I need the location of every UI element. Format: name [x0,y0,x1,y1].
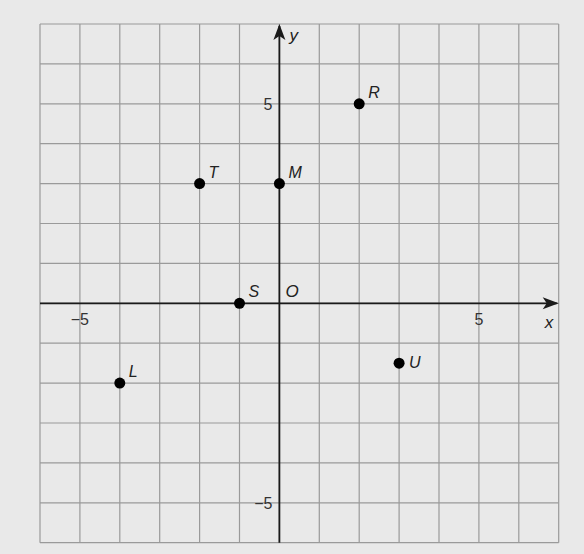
point-u-label: U [409,354,421,371]
x-tick-label: 5 [474,311,483,328]
y-axis-label: y [288,26,299,45]
grid [40,24,559,543]
x-tick-label: −5 [71,311,89,328]
point-s-marker [234,298,245,309]
y-tick-label: −5 [254,495,272,512]
point-l-marker [114,378,125,389]
y-tick-label: 5 [263,96,272,113]
point-t-marker [194,178,205,189]
x-axis-label: x [544,313,554,332]
point-u-marker [394,358,405,369]
point-m-label: M [288,164,302,181]
axes: xyO [40,24,559,543]
point-r-label: R [368,84,380,101]
coordinate-plane: xyO −555−5 RTMSUL [0,0,584,554]
point-s-label: S [249,283,260,300]
point-m-marker [274,178,285,189]
origin-label: O [285,282,298,301]
point-t-label: T [209,164,220,181]
point-r-marker [354,98,365,109]
point-l-label: L [129,363,138,380]
